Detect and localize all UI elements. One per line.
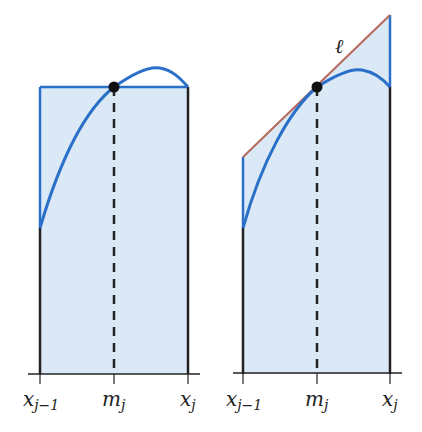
midpoint-dot: [109, 82, 120, 93]
midpoint-rule-diagram: xj−1 mj xj ℓ xj−1 mj xj: [0, 0, 422, 432]
label-x-j: xj: [382, 387, 398, 413]
label-x-j-minus-1: xj−1: [226, 387, 262, 413]
tangent-trapezoid: [243, 15, 390, 374]
label-x-j: xj: [180, 387, 196, 413]
left-panel: xj−1 mj xj: [23, 68, 200, 413]
label-m-j: mj: [102, 387, 126, 413]
right-panel: ℓ xj−1 mj xj: [226, 15, 402, 413]
label-x-j-minus-1: xj−1: [23, 387, 59, 413]
tangent-point-dot: [312, 82, 323, 93]
label-m-j: mj: [305, 387, 329, 413]
tangent-label: ℓ: [335, 34, 344, 58]
